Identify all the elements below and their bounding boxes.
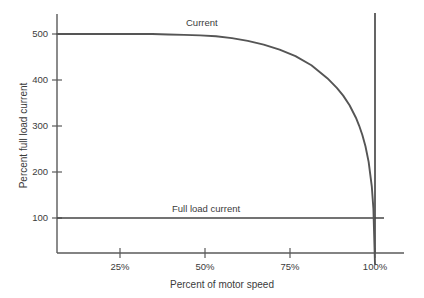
x-axis-title: Percent of motor speed	[92, 279, 352, 290]
x-tick-label-25: 25%	[98, 261, 142, 272]
x-tick-label-100: 100%	[353, 261, 397, 272]
y-tick-label-500: 500	[8, 28, 48, 39]
x-tick-label-50: 50%	[183, 261, 227, 272]
series-label-full-load-current: Full load current	[172, 203, 240, 214]
chart-figure: 100 200 300 400 500 25% 50% 75% 100% Per…	[0, 0, 424, 298]
series-label-current: Current	[186, 17, 218, 28]
y-tick-label-100: 100	[8, 212, 48, 223]
y-axis-title: Percent full load current	[18, 61, 29, 211]
x-tick-label-75: 75%	[268, 261, 312, 272]
chart-plot-area	[0, 0, 424, 298]
current-curve-path	[57, 34, 375, 264]
